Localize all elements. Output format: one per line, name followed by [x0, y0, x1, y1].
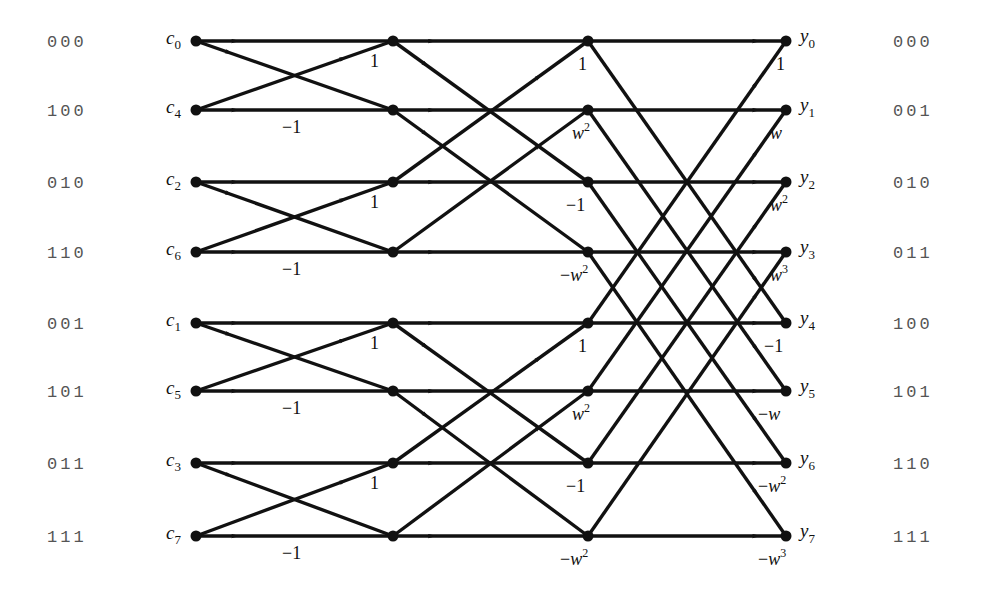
stage2-weight: 1	[578, 336, 587, 356]
input-bit-index: 011	[47, 455, 87, 474]
node-dot	[388, 36, 399, 47]
labels: 0001000101100011010111110000010100111001…	[47, 25, 933, 569]
stage2-weight: 1	[578, 54, 587, 74]
node-dot	[388, 247, 399, 258]
output-bit-index: 101	[893, 383, 933, 402]
node-dot	[191, 318, 202, 329]
input-label-c0: c0	[166, 27, 181, 52]
output-label-y1: y1	[798, 94, 815, 120]
output-label-y2: y2	[798, 166, 815, 192]
stage2-weight: w2	[572, 401, 590, 424]
node-dot	[583, 105, 594, 116]
node-dot	[583, 36, 594, 47]
output-bit-index: 010	[893, 174, 933, 193]
node-dot	[583, 386, 594, 397]
node-dot	[583, 458, 594, 469]
node-dot	[388, 531, 399, 542]
node-dot	[583, 177, 594, 188]
butterfly-edges	[196, 41, 786, 536]
node-dot	[388, 386, 399, 397]
stage2-weight: −w2	[560, 546, 588, 569]
node-dot	[388, 458, 399, 469]
node-dot	[191, 177, 202, 188]
stage1-weight: −1	[282, 259, 301, 279]
node-dot	[191, 386, 202, 397]
output-label-y5: y5	[798, 375, 815, 401]
node-dot	[191, 105, 202, 116]
stage2-weight: −1	[566, 195, 585, 215]
node-dot	[781, 318, 792, 329]
output-bit-index: 000	[893, 33, 933, 52]
node-dot	[781, 105, 792, 116]
output-bit-index: 011	[893, 244, 933, 263]
stage3-weight: w2	[770, 192, 788, 215]
output-label-y4: y4	[798, 307, 815, 333]
input-label-c7: c7	[166, 522, 181, 547]
input-label-c3: c3	[166, 449, 181, 474]
output-label-y3: y3	[798, 236, 815, 262]
stage3-weight: 1	[776, 54, 785, 74]
input-bit-index: 101	[47, 383, 87, 402]
node-dot	[388, 318, 399, 329]
node-dot	[583, 531, 594, 542]
output-bit-index: 110	[893, 455, 933, 474]
output-label-y6: y6	[798, 447, 815, 473]
node-dot	[781, 36, 792, 47]
node-dot	[191, 36, 202, 47]
output-bit-index: 001	[893, 102, 933, 121]
stage1-weight: −1	[282, 543, 301, 563]
input-bit-index: 001	[47, 315, 87, 334]
output-bit-index: 100	[893, 315, 933, 334]
node-dot	[781, 177, 792, 188]
output-label-y0: y0	[798, 25, 815, 51]
input-label-c6: c6	[166, 238, 181, 263]
input-bit-index: 000	[47, 33, 87, 52]
stage1-weight: 1	[370, 473, 379, 493]
input-bit-index: 110	[47, 244, 87, 263]
stage3-weight: −1	[764, 336, 783, 356]
stage2-weight: −1	[566, 476, 585, 496]
stage3-weight: −w2	[758, 473, 786, 496]
output-bit-index: 111	[893, 528, 933, 547]
input-label-c2: c2	[166, 168, 181, 193]
stage1-weight: 1	[370, 192, 379, 212]
stage2-weight: w2	[572, 120, 590, 143]
stage1-weight: 1	[370, 51, 379, 71]
stage3-weight: −w3	[758, 546, 786, 569]
node-dot	[388, 105, 399, 116]
node-dot	[583, 247, 594, 258]
stage3-weight: w3	[770, 262, 788, 285]
input-label-c5: c5	[166, 377, 181, 402]
output-label-y7: y7	[798, 520, 815, 546]
node-dot	[781, 386, 792, 397]
node-dot	[191, 531, 202, 542]
stage1-weight: −1	[282, 117, 301, 137]
node-dot	[388, 177, 399, 188]
node-dot	[781, 531, 792, 542]
stage1-weight: 1	[370, 333, 379, 353]
node-dot	[781, 458, 792, 469]
input-bit-index: 111	[47, 528, 87, 547]
node-dot	[191, 458, 202, 469]
fft-butterfly-diagram: 0001000101100011010111110000010100111001…	[0, 0, 989, 606]
stage3-weight: −w	[758, 404, 780, 424]
input-bit-index: 100	[47, 102, 87, 121]
node-dot	[781, 247, 792, 258]
stage2-weight: −w2	[560, 262, 588, 285]
input-bit-index: 010	[47, 174, 87, 193]
stage1-weight: −1	[282, 398, 301, 418]
node-dot	[191, 247, 202, 258]
input-label-c1: c1	[166, 309, 181, 334]
node-dot	[583, 318, 594, 329]
input-label-c4: c4	[166, 96, 181, 121]
stage3-weight: w	[770, 123, 782, 143]
